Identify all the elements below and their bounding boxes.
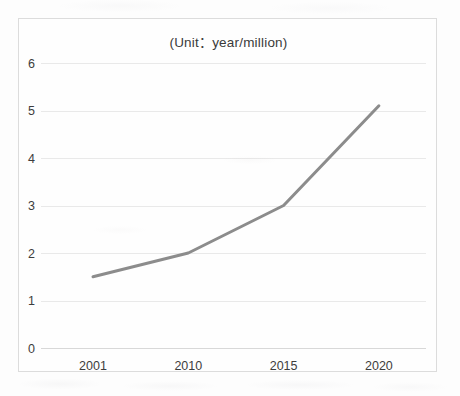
x-axis-tick-label: 2001 (79, 359, 107, 373)
y-axis-tick-label: 5 (28, 104, 35, 118)
y-axis-tick-label: 3 (28, 199, 35, 213)
y-axis-tick-label: 4 (28, 152, 35, 166)
x-axis-tick-label: 2020 (365, 359, 393, 373)
gridlines-group (41, 64, 426, 349)
line-chart-plot: 0123456 2001201020152020 (19, 19, 438, 373)
y-axis-tick-label: 1 (28, 294, 35, 308)
y-axis-tick-label: 2 (28, 247, 35, 261)
data-series-line (93, 106, 379, 277)
x-axis-tick-label: 2015 (270, 359, 298, 373)
x-axis-tick-labels: 2001201020152020 (79, 359, 393, 373)
y-axis-tick-label: 0 (28, 342, 35, 356)
chart-container: (Unit：year/million) 0123456 200120102015… (18, 18, 437, 372)
y-axis-tick-label: 6 (28, 57, 35, 71)
y-axis-tick-labels: 0123456 (28, 57, 35, 356)
x-axis-tick-label: 2010 (174, 359, 202, 373)
